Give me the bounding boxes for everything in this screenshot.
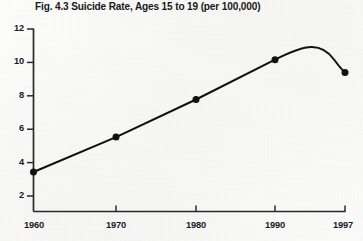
- y-tick-label: 2: [2, 190, 24, 200]
- x-tick-label: 1990: [255, 220, 295, 230]
- x-tick-label: 1960: [14, 220, 54, 230]
- x-tick-label: 1997: [323, 220, 363, 230]
- x-tick-label: 1980: [176, 220, 216, 230]
- line-chart-plot: [0, 0, 363, 241]
- data-line-series: [34, 47, 346, 172]
- data-point: [30, 169, 37, 176]
- x-tick-label: 1970: [96, 220, 136, 230]
- data-point: [342, 69, 349, 76]
- y-tick-label: 6: [2, 123, 24, 133]
- data-point: [113, 134, 120, 141]
- y-tick-label: 4: [2, 157, 24, 167]
- y-tick-label: 10: [2, 56, 24, 66]
- data-point: [193, 96, 200, 103]
- x-axis-ticks: [116, 206, 345, 212]
- y-tick-label: 8: [2, 90, 24, 100]
- y-tick-label: 12: [2, 23, 24, 33]
- data-point-markers: [30, 56, 349, 175]
- figure-canvas: Fig. 4.3 Suicide Rate, Ages 15 to 19 (pe…: [0, 0, 363, 241]
- data-point: [272, 56, 279, 63]
